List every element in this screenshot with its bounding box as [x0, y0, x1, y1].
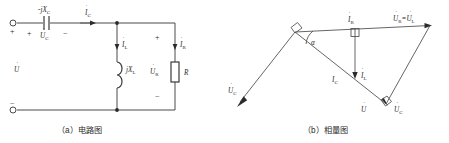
node-top-middle — [115, 21, 119, 25]
phasor-voltage-r-eq-l-label: UR=UL — [393, 15, 415, 24]
phasor-voltage-c-right-dot: ˙ — [396, 101, 398, 107]
phasor-ur-arrow — [425, 23, 433, 28]
resistor-voltage-dot: ˙ — [152, 63, 154, 69]
resistor-current-dot: ˙ — [180, 36, 182, 42]
capacitor-current-label: IC — [84, 9, 91, 18]
capacitor-current-dot: ˙ — [85, 4, 87, 10]
caption-circuit-diagram: （a）电路图 — [57, 125, 102, 135]
node-bottom-middle — [115, 108, 119, 112]
phasor-voltage-l-dot: ˙ — [410, 10, 412, 16]
phasor-uc-right-line — [386, 26, 430, 105]
figure-root: -jXC UC ˙ IC ˙ IL ˙ jXL IR ˙ UR ˙ R U ˙ … — [0, 0, 449, 143]
phasor-current-l-dot: ˙ — [361, 67, 363, 73]
panel-circuit-diagram: -jXC UC ˙ IC ˙ IL ˙ jXL IR ˙ UR ˙ R U ˙ … — [10, 4, 189, 135]
resistor-minus-sign: − — [155, 92, 160, 101]
current-arrow-c-head — [90, 20, 96, 25]
inductor-impedance-label: jXL — [125, 66, 135, 75]
resistor-voltage-label: UR — [150, 68, 159, 77]
phasor-current-r-label: IR — [347, 16, 354, 25]
current-arrow-r-head — [173, 44, 178, 50]
phasor-uc-left-line — [240, 32, 295, 102]
resistor-body — [171, 62, 179, 82]
current-arrow-l-head — [115, 44, 120, 50]
phasor-current-c-label: IC — [331, 76, 338, 85]
terminal-plus-sign: + — [10, 27, 15, 36]
resistor-current-label: IR — [179, 41, 186, 50]
phasor-voltage-total-label: U — [361, 106, 367, 114]
panel-phasor-diagram: IR ˙ UR=UL ˙ ˙ IC IL ˙ U ˙ UC ˙ UC ˙ α （… — [228, 10, 432, 136]
terminal-minus-sign: − — [10, 99, 15, 108]
caption-phasor-diagram: （b）相量图 — [303, 125, 348, 135]
phasor-voltage-c-left-dot: ˙ — [230, 82, 232, 88]
phasor-voltage-r-dot: ˙ — [395, 10, 397, 16]
capacitor-voltage-dot: ˙ — [42, 27, 44, 33]
phasor-angle-alpha-label: α — [311, 39, 315, 47]
phasor-voltage-total-dot: ˙ — [363, 101, 365, 107]
source-voltage-dot: ˙ — [16, 61, 18, 67]
resistor-name-label: R — [183, 69, 189, 77]
source-voltage-label: U — [14, 66, 20, 74]
capacitor-plus-sign: + — [27, 29, 32, 38]
inductor-current-dot: ˙ — [122, 36, 124, 42]
phasor-ur-line — [295, 26, 430, 33]
phasor-voltage-c-left-label: UC — [228, 87, 237, 96]
inductor-coil — [117, 62, 122, 88]
phasor-voltage-c-right-label: UC — [394, 106, 403, 115]
capacitor-minus-sign: − — [63, 29, 68, 38]
capacitor-impedance-label: -jXC — [38, 6, 51, 15]
inductor-current-label: IL — [121, 41, 127, 50]
phasor-ic-line — [295, 32, 386, 104]
capacitor-voltage-label: UC — [40, 32, 49, 41]
terminal-top — [10, 20, 16, 26]
phasor-current-l-label: IL — [360, 72, 366, 81]
phasor-uc-left-arrow — [237, 96, 247, 107]
resistor-plus-sign: + — [155, 33, 160, 42]
phasor-current-r-dot: ˙ — [348, 11, 350, 17]
